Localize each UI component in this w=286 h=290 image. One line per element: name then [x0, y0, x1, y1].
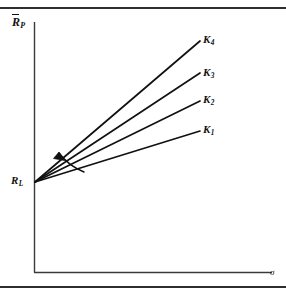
series-label-k2-sub: 2 — [211, 99, 215, 107]
origin-label-sub: L — [19, 180, 23, 188]
plot-area — [0, 0, 286, 290]
ray-k2 — [35, 101, 200, 182]
series-label-k4-main: K — [203, 33, 210, 45]
ray-k3 — [35, 73, 200, 182]
series-label-k3-sub: 3 — [211, 72, 215, 80]
series-label-k2: K2 — [203, 94, 214, 105]
series-label-k2-main: K — [203, 93, 210, 105]
y-axis-label-main: R — [12, 16, 20, 28]
series-label-k3: K3 — [203, 67, 214, 78]
capital-market-lines — [35, 41, 200, 182]
series-label-k1-main: K — [203, 123, 210, 135]
ray-k4 — [35, 41, 200, 182]
axis-lines — [34, 22, 272, 273]
x-axis-label: σ — [270, 268, 274, 277]
figure-root: RP σ RL K4 K3 K2 K1 — [0, 0, 286, 290]
increasing-k-arrowhead — [54, 152, 65, 161]
series-label-k4-sub: 4 — [211, 39, 215, 47]
origin-label-main: R — [11, 174, 18, 186]
series-label-k4: K4 — [203, 34, 214, 45]
y-axis-label: RP — [12, 16, 25, 28]
y-axis-label-sub: P — [20, 21, 25, 30]
origin-label-rl: RL — [11, 175, 23, 186]
series-label-k1: K1 — [203, 124, 214, 135]
series-label-k3-main: K — [203, 66, 210, 78]
series-label-k1-sub: 1 — [211, 129, 215, 137]
